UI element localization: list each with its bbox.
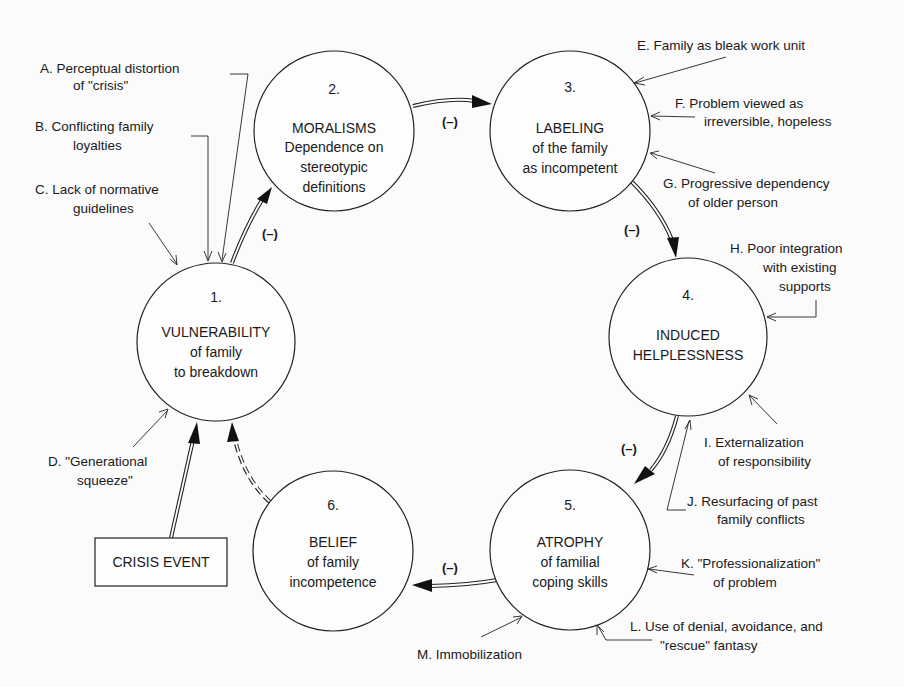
factor-A: A. Perceptual distortion of "crisis" [40,61,248,262]
svg-text:with existing: with existing [762,260,837,275]
svg-text:LABELING: LABELING [536,120,604,136]
svg-text:stereotypic: stereotypic [300,159,368,175]
svg-text:M. Immobilization: M. Immobilization [417,647,522,662]
node-4-induced-helplessness: 4. INDUCED HELPLESSNESS [609,258,767,416]
svg-text:B. Conflicting family: B. Conflicting family [35,119,154,134]
edge-label-5-6: (–) [442,560,458,575]
svg-text:H. Poor integration: H. Poor integration [730,241,843,256]
svg-text:as incompetent: as incompetent [523,160,618,176]
arrow-3-to-4 [632,182,679,258]
arrow-6-to-1-dashed [227,422,270,502]
svg-text:C. Lack of normative: C. Lack of normative [35,182,159,197]
svg-text:4.: 4. [682,287,694,303]
svg-text:I. Externalization: I. Externalization [704,435,804,450]
edge-label-4-5: (–) [621,441,637,456]
node-1-vulnerability: 1. VULNERABILITY of family to breakdown [137,263,295,421]
arrow-5-to-6 [412,579,497,592]
arrow-2-to-3 [413,95,492,108]
factor-E: E. Family as bleak work unit [634,38,805,85]
svg-text:A. Perceptual distortion: A. Perceptual distortion [40,61,180,76]
svg-text:of responsibility: of responsibility [718,454,811,469]
svg-text:2.: 2. [328,81,340,97]
svg-text:of "crisis": of "crisis" [73,78,129,93]
factor-M: M. Immobilization [417,616,522,662]
edge-label-3-4: (–) [624,222,640,237]
factor-F: F. Problem viewed as irreversible, hopel… [651,96,832,129]
arrow-crisis-to-1 [171,422,200,538]
svg-text:family conflicts: family conflicts [717,512,805,527]
svg-text:G. Progressive dependency: G. Progressive dependency [663,176,830,191]
svg-text:E. Family as bleak work unit: E. Family as bleak work unit [637,38,805,53]
svg-text:VULNERABILITY: VULNERABILITY [162,324,272,340]
svg-text:guidelines: guidelines [73,201,134,216]
svg-text:coping skills: coping skills [532,574,607,590]
svg-text:of older person: of older person [688,195,778,210]
svg-text:1.: 1. [210,289,222,305]
svg-text:CRISIS EVENT: CRISIS EVENT [112,554,210,570]
svg-text:MORALISMS: MORALISMS [292,120,376,136]
svg-text:INDUCED: INDUCED [656,327,720,343]
svg-text:Dependence on: Dependence on [285,139,384,155]
svg-text:squeeze": squeeze" [77,473,133,488]
factor-D: D. "Generational squeeze" [48,409,168,488]
edge-label-2-3: (–) [442,114,458,129]
factor-C: C. Lack of normative guidelines [35,182,177,265]
svg-text:BELIEF: BELIEF [309,534,357,550]
arrow-1-to-2 [232,187,272,263]
svg-text:of problem: of problem [713,575,777,590]
svg-text:5.: 5. [564,497,576,513]
svg-text:definitions: definitions [302,179,365,195]
svg-text:supports: supports [779,279,831,294]
arrow-4-to-5 [634,416,677,484]
svg-text:F. Problem viewed as: F. Problem viewed as [675,96,804,111]
node-5-atrophy: 5. ATROPHY of familial coping skills [490,470,650,630]
family-crisis-cycle-diagram: (–) (–) (–) (–) (–) 1. [0,0,904,687]
node-2-moralisms: 2. MORALISMS Dependence on stereotypic d… [254,51,414,211]
node-6-belief: 6. BELIEF of family incompetence [253,471,413,631]
factor-K: K. "Professionalization" of problem [648,556,821,590]
factor-L: L. Use of denial, avoidance, and "rescue… [597,619,823,653]
svg-text:of family: of family [190,344,242,360]
svg-text:incompetence: incompetence [289,574,376,590]
svg-text:6.: 6. [327,497,339,513]
svg-text:of familial: of familial [540,554,599,570]
svg-text:K. "Professionalization": K. "Professionalization" [681,556,821,571]
svg-text:HELPLESSNESS: HELPLESSNESS [633,347,744,363]
svg-text:loyalties: loyalties [73,138,122,153]
svg-text:3.: 3. [564,79,576,95]
svg-text:J. Resurfacing of past: J. Resurfacing of past [687,494,818,509]
svg-text:"rescue" fantasy: "rescue" fantasy [660,638,758,653]
svg-text:L. Use of denial, avoidance, a: L. Use of denial, avoidance, and [630,619,823,634]
svg-text:ATROPHY: ATROPHY [537,534,604,550]
factor-G: G. Progressive dependency of older perso… [650,151,830,210]
edge-label-1-2: (–) [262,226,278,241]
svg-text:to breakdown: to breakdown [174,364,258,380]
svg-text:irreversible, hopeless: irreversible, hopeless [704,114,832,129]
svg-text:of family: of family [307,554,359,570]
crisis-event-box: CRISIS EVENT [95,538,227,586]
svg-text:D. "Generational: D. "Generational [48,454,147,469]
node-3-labeling: 3. LABELING of the family as incompetent [490,51,650,211]
svg-text:of the family: of the family [532,140,607,156]
